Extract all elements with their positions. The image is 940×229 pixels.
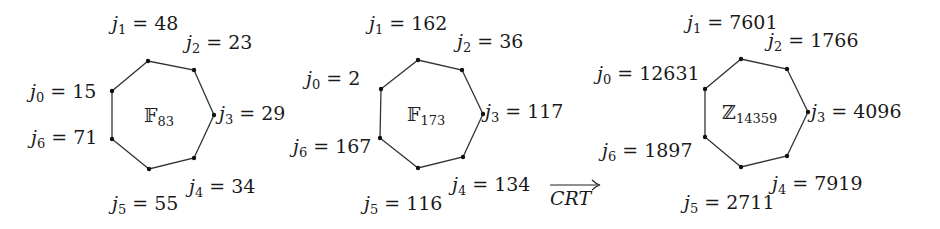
vertex-j6 — [110, 137, 114, 141]
vertex-j2 — [460, 68, 464, 72]
vertex-j5 — [739, 165, 743, 169]
label-j2: j2 = 23 — [182, 31, 252, 56]
label-j2: j2 = 1766 — [764, 29, 859, 54]
field-label: 𝔽83 — [144, 104, 174, 129]
vertex-j0 — [110, 89, 114, 93]
crt-heptagon-diagram: 𝔽83 j1 = 48 j2 = 23 j0 = 15 j3 = 29 j6 =… — [0, 0, 940, 229]
label-j5: j5 = 116 — [360, 192, 442, 217]
label-j0: j0 = 15 — [26, 80, 96, 105]
crt-arrow: CRT — [550, 180, 600, 209]
vertex-j3 — [212, 113, 216, 117]
label-j6: j6 = 1897 — [598, 139, 693, 164]
label-j3: j3 = 4096 — [807, 100, 902, 125]
vertex-j5 — [147, 167, 151, 171]
vertex-j2 — [192, 68, 196, 72]
vertex-j0 — [703, 87, 707, 91]
label-j0: j0 = 12631 — [593, 62, 700, 87]
field-label: 𝔽173 — [407, 103, 445, 128]
vertex-j1 — [416, 58, 420, 62]
vertex-j4 — [785, 154, 789, 158]
vertex-j2 — [785, 67, 789, 71]
vertex-j3 — [806, 110, 810, 114]
vertex-j4 — [192, 156, 196, 160]
field-label: ℤ14359 — [722, 101, 777, 126]
vertex-j1 — [739, 57, 743, 61]
label-j4: j4 = 134 — [448, 173, 530, 198]
label-j1: j1 = 48 — [108, 12, 178, 37]
vertex-j1 — [146, 59, 150, 63]
label-j3: j3 = 29 — [215, 102, 285, 127]
label-j1: j1 = 162 — [365, 12, 447, 37]
label-j3: j3 = 117 — [481, 100, 563, 125]
vertex-j6 — [703, 135, 707, 139]
label-j6: j6 = 167 — [289, 135, 371, 160]
label-j4: j4 = 34 — [185, 175, 255, 200]
vertex-j4 — [461, 155, 465, 159]
label-j5: j5 = 2711 — [680, 191, 775, 216]
vertex-j5 — [416, 166, 420, 170]
heptagon-z14359: ℤ14359 j1 = 7601 j2 = 1766 j0 = 12631 j3… — [593, 11, 902, 216]
label-j0: j0 = 2 — [302, 67, 360, 92]
label-j2: j2 = 36 — [453, 30, 523, 55]
arrow-label: CRT — [550, 187, 593, 209]
label-j4: j4 = 7919 — [768, 172, 863, 197]
label-j1: j1 = 7601 — [683, 11, 778, 36]
heptagon-f173: 𝔽173 j1 = 162 j2 = 36 j0 = 2 j3 = 117 j6… — [289, 12, 563, 217]
vertex-j6 — [378, 136, 382, 140]
label-j6: j6 = 71 — [27, 126, 97, 151]
label-j5: j5 = 55 — [108, 192, 178, 217]
heptagon-f83: 𝔽83 j1 = 48 j2 = 23 j0 = 15 j3 = 29 j6 =… — [26, 12, 285, 217]
vertex-j0 — [379, 87, 383, 91]
